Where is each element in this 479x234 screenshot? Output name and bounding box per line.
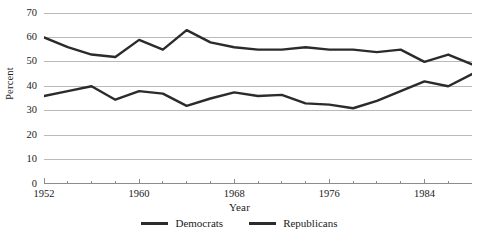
legend-line-swatch-democrats [141,222,168,225]
y-tick-label-70: 70 [27,8,38,19]
y-tick-label-20: 20 [27,130,38,141]
legend-entry-democrats: Democrats [141,217,223,229]
x-tick-label-1968: 1968 [224,188,245,199]
x-tick-label-1984: 1984 [414,188,435,199]
legend-entry-republicans: Republicans [249,217,337,229]
legend-label-democrats: Democrats [175,217,223,229]
x-axis-title: Year [0,201,479,213]
party-identification-line-chart: 010203040506070 Percent 1952196019681976… [0,0,479,234]
y-tick-label-50: 50 [27,56,38,67]
y-axis-title: Percent [4,54,15,114]
y-tick-label-60: 60 [27,32,38,43]
plot-svg [44,13,472,184]
x-tick-label-1960: 1960 [129,188,150,199]
data-series-group [44,30,472,108]
legend-line-swatch-republicans [249,222,276,225]
x-axis-tick-labels: 19521960196819761984 [44,188,472,202]
legend-label-republicans: Republicans [283,217,337,229]
plot-area [44,13,472,184]
series-line-democrats [44,30,472,64]
y-tick-label-10: 10 [27,154,38,165]
y-tick-label-30: 30 [27,105,38,116]
chart-legend: Democrats Republicans [0,217,479,229]
gridlines [44,13,472,160]
x-tick-label-1952: 1952 [34,188,55,199]
series-line-republicans [44,74,472,108]
x-tick-label-1976: 1976 [319,188,340,199]
y-tick-label-40: 40 [27,81,38,92]
